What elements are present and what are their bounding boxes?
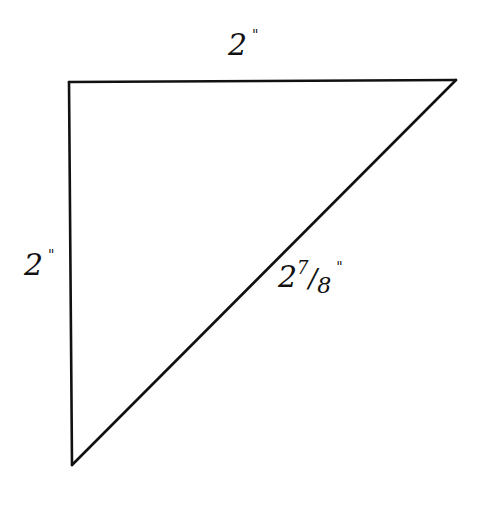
inch-mark: " [336, 259, 342, 275]
top-side-value: 2 [228, 27, 247, 62]
hypotenuse-label: 27/8" [278, 262, 343, 292]
top-side-label: 2" [228, 30, 259, 60]
hypotenuse-slash: / [309, 263, 318, 293]
triangle-diagram [0, 0, 487, 505]
hypotenuse-line [72, 80, 456, 465]
hypotenuse-whole: 2 [278, 259, 297, 294]
inch-mark: " [252, 27, 258, 43]
inch-mark: " [48, 247, 54, 263]
left-side-label: 2" [24, 250, 55, 280]
left-side-value: 2 [24, 247, 43, 282]
left-side-line [69, 82, 72, 465]
hypotenuse-denominator: 8 [317, 273, 331, 298]
top-side-line [69, 80, 456, 82]
hypotenuse-numerator: 7 [297, 257, 308, 278]
